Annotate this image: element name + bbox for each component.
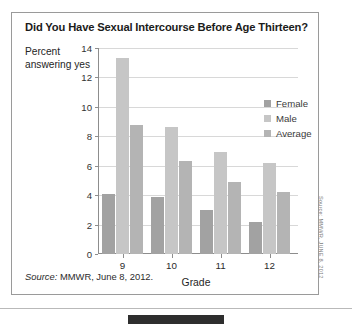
legend-item-male: Male: [264, 112, 312, 125]
legend-item-female: Female: [264, 97, 312, 110]
y-axis-tick: 2: [87, 219, 92, 230]
source-note-text: MMWR, June 8, 2012.: [57, 271, 153, 282]
y-axis-tick: 0: [87, 249, 92, 260]
y-axis-tick: 14: [81, 43, 92, 54]
bar-group: 11: [196, 48, 245, 254]
x-axis-tick: 9: [120, 260, 125, 271]
x-axis-tick: 12: [264, 260, 275, 271]
plot-area: 02468101214 9101112: [98, 48, 294, 254]
bar-male-grade-11: [214, 152, 227, 254]
chart-legend: FemaleMaleAverage: [264, 97, 312, 142]
bar-group: 12: [245, 48, 294, 254]
legend-label: Average: [276, 128, 312, 139]
y-axis-tick: 10: [81, 101, 92, 112]
bar-male-grade-10: [165, 127, 178, 254]
bar-average-grade-10: [179, 161, 192, 254]
bar-male-grade-9: [116, 58, 129, 254]
bar-groups: 9101112: [98, 48, 294, 254]
source-note-prefix: Source:: [25, 271, 57, 282]
legend-label: Female: [276, 98, 308, 109]
bar-average-grade-11: [228, 182, 241, 254]
credit-text: Source: MMWR, JUNE 8, 2012: [318, 196, 324, 279]
x-axis-tick-mark: [270, 254, 271, 258]
y-axis-tick: 6: [87, 160, 92, 171]
x-axis-tick-mark: [172, 254, 173, 258]
y-axis-tick: 4: [87, 190, 92, 201]
legend-swatch-male: [264, 115, 271, 122]
chart-figure: Did You Have Sexual Intercourse Before A…: [0, 0, 352, 328]
x-axis-tick-mark: [123, 254, 124, 258]
chart-title: Did You Have Sexual Intercourse Before A…: [25, 21, 308, 33]
bar-male-grade-12: [263, 163, 276, 254]
y-axis-tick: 12: [81, 72, 92, 83]
bar-female-grade-10: [151, 197, 164, 254]
bar-group: 10: [147, 48, 196, 254]
legend-swatch-average: [264, 130, 271, 137]
bar-average-grade-12: [277, 192, 290, 254]
bar-average-grade-9: [130, 125, 143, 254]
source-note: Source: MMWR, June 8, 2012.: [25, 271, 153, 282]
legend-label: Male: [276, 113, 297, 124]
legend-swatch-female: [264, 100, 271, 107]
bottom-bar: [128, 315, 224, 324]
y-axis-tick-mark: [95, 254, 98, 255]
bar-group: 9: [98, 48, 147, 254]
bar-female-grade-11: [200, 210, 213, 254]
x-axis-tick: 10: [166, 260, 177, 271]
chart-card: Did You Have Sexual Intercourse Before A…: [11, 12, 319, 295]
y-axis-tick: 8: [87, 131, 92, 142]
x-axis-tick-mark: [221, 254, 222, 258]
x-axis-tick: 11: [215, 260, 225, 271]
bar-female-grade-12: [249, 222, 262, 254]
bottom-divider: [0, 308, 352, 309]
bar-female-grade-9: [102, 194, 115, 254]
legend-item-average: Average: [264, 127, 312, 140]
